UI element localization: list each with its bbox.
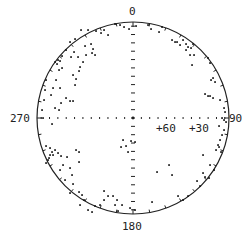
data-point — [52, 87, 54, 89]
data-point — [61, 55, 63, 57]
data-point — [135, 25, 137, 27]
perimeter-tick — [116, 23, 117, 26]
perimeter-tick — [180, 199, 182, 202]
perimeter-tick — [149, 210, 150, 213]
data-point — [41, 109, 43, 111]
perimeter-tick — [225, 134, 228, 135]
data-point — [156, 171, 158, 173]
perimeter-tick — [204, 56, 206, 58]
data-point — [217, 144, 219, 146]
data-point — [50, 94, 52, 96]
azimuth-labels: 0 90 180 270 +60 +30 — [10, 5, 242, 233]
crosshair-axes — [41, 26, 225, 210]
data-point — [94, 205, 96, 207]
data-point — [43, 99, 45, 101]
data-point — [69, 100, 71, 102]
data-point — [219, 139, 221, 141]
data-point — [73, 51, 75, 53]
data-point — [78, 70, 80, 72]
data-point — [42, 117, 44, 119]
data-point — [187, 46, 189, 48]
data-point — [74, 38, 76, 40]
data-point — [174, 41, 176, 43]
data-point — [69, 192, 71, 194]
data-point — [123, 26, 125, 28]
data-point — [161, 26, 163, 28]
data-point — [171, 39, 173, 41]
data-point — [79, 66, 81, 68]
data-point — [99, 204, 101, 206]
perimeter-tick — [50, 70, 53, 72]
data-point — [223, 119, 225, 121]
data-point — [204, 176, 206, 178]
perimeter-tick — [214, 165, 217, 167]
data-point — [209, 95, 211, 97]
data-point — [55, 79, 57, 81]
data-point — [78, 191, 80, 193]
label-south: 180 — [122, 220, 142, 233]
data-point — [179, 44, 181, 46]
data-point — [57, 152, 59, 154]
perimeter-tick — [71, 189, 73, 191]
data-point — [207, 95, 209, 97]
data-point — [58, 109, 60, 111]
data-point — [182, 199, 184, 201]
data-point — [60, 102, 62, 104]
data-point — [79, 204, 81, 206]
data-point — [130, 140, 132, 142]
perimeter-tick — [214, 70, 217, 72]
data-point — [59, 87, 61, 89]
label-north: 0 — [129, 5, 136, 18]
data-point — [95, 30, 97, 32]
data-point — [212, 77, 214, 79]
data-point — [218, 146, 220, 148]
data-point — [199, 185, 201, 187]
label-west: 270 — [10, 112, 30, 125]
data-point — [71, 174, 73, 176]
data-point — [128, 28, 130, 30]
data-point — [91, 211, 93, 213]
data-point — [209, 164, 211, 166]
data-point — [85, 54, 87, 56]
data-point — [117, 210, 119, 212]
data-point — [134, 209, 136, 211]
perimeter-tick — [165, 28, 166, 31]
data-point — [83, 199, 85, 201]
data-point — [45, 162, 47, 164]
data-point — [51, 151, 53, 153]
data-point — [176, 41, 178, 43]
data-point — [221, 134, 223, 136]
data-point — [223, 107, 225, 109]
perimeter-tick — [180, 35, 182, 38]
perimeter-tick — [38, 134, 41, 135]
data-point — [112, 195, 114, 197]
data-point — [121, 204, 123, 206]
data-point — [52, 154, 54, 156]
data-point — [220, 151, 222, 153]
data-point — [54, 107, 56, 109]
data-point — [219, 99, 221, 101]
data-point — [60, 155, 62, 157]
data-point — [204, 93, 206, 95]
data-point — [59, 169, 61, 171]
data-point — [214, 81, 216, 83]
perimeter-tick — [85, 35, 87, 38]
data-point — [56, 63, 58, 65]
data-point — [44, 89, 46, 91]
data-point — [150, 28, 152, 30]
data-point — [81, 194, 83, 196]
perimeter-tick — [38, 101, 41, 102]
data-point — [127, 151, 129, 153]
data-point — [72, 183, 74, 185]
perimeter-tick — [204, 178, 206, 180]
data-point — [72, 74, 74, 76]
data-point — [65, 97, 67, 99]
data-point — [192, 43, 194, 45]
data-point — [120, 146, 122, 148]
data-point — [119, 24, 121, 26]
dip-marker-30: +30 — [189, 122, 209, 135]
data-point — [100, 32, 102, 34]
data-point — [190, 47, 192, 49]
data-point — [45, 145, 47, 147]
data-point — [185, 43, 187, 45]
